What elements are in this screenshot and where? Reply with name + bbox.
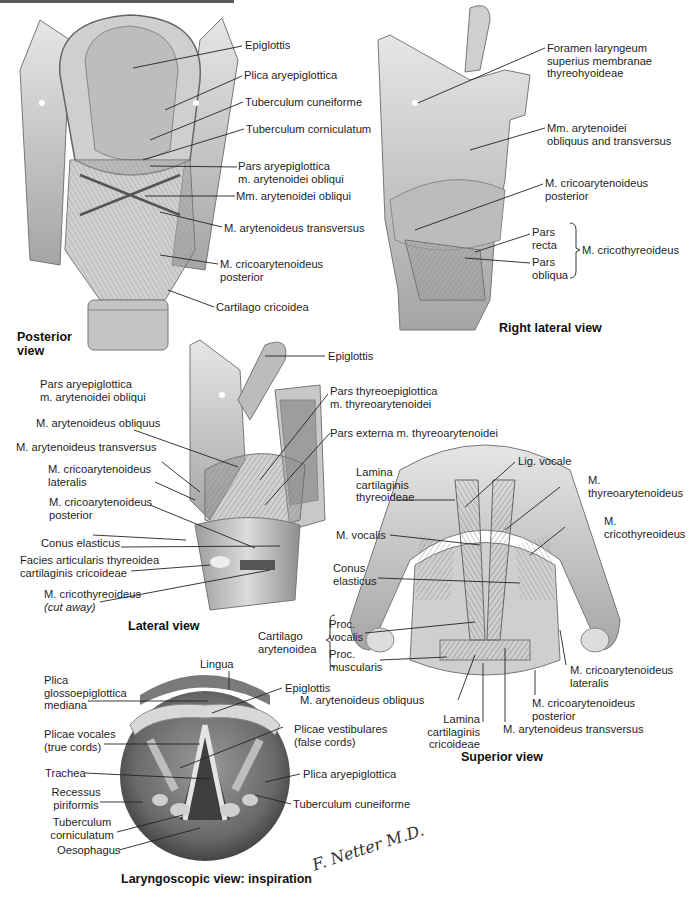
- label-mm-arytenoidei-obliqui: Mm. arytenoidei obliqui: [236, 190, 351, 203]
- label-tuberculum-cuneiforme-laryngoscopic: Tuberculum cuneiforme: [293, 798, 410, 811]
- label-pars-aryepiglottica-lateral: Pars aryepiglottica m. arytenoidei obliq…: [40, 378, 146, 403]
- label-m-cricoarytenoideus-lateralis: M. cricoarytenoideus lateralis: [48, 463, 151, 488]
- label-plica-aryepiglottica-laryngoscopic: Plica aryepiglottica: [303, 768, 396, 781]
- right-lateral-view-title: Right lateral view: [499, 321, 602, 335]
- laryngoscopic-view-illustration: [120, 675, 290, 861]
- label-tuberculum-corniculatum-laryngoscopic: Tuberculum corniculatum: [46, 816, 118, 841]
- label-pars-recta: Pars recta: [532, 226, 557, 251]
- label-pars-obliqua: Pars obliqua: [532, 256, 568, 281]
- label-m-thyreoarytenoideus: M. thyreoarytenoideus: [588, 474, 683, 499]
- label-conus-elasticus-lateral: Conus elasticus: [41, 537, 120, 550]
- label-m-cricoarytenoideus-posterior-superior: M. cricoarytenoideus posterior: [532, 697, 635, 722]
- superior-view-title: Superior view: [461, 750, 543, 764]
- label-pars-thyreoepiglottica: Pars thyreoepiglottica m. thyreoarytenoi…: [330, 385, 438, 410]
- label-m-arytenoideus-transversus-superior: M. arytenoideus transversus: [503, 723, 644, 736]
- label-pars-aryepiglottica: Pars aryepiglottica m. arytenoidei obliq…: [238, 160, 344, 185]
- label-plicae-vocales: Plicae vocales (true cords): [44, 728, 116, 753]
- label-cartilago-cricoidea: Cartilago cricoidea: [216, 301, 309, 314]
- label-m-cricothyreoideus-superior: M. cricothyreoideus: [604, 515, 685, 540]
- label-plica-glossoepiglottica-mediana: Plica glossoepiglottica mediana: [44, 674, 127, 712]
- label-m-cricothyreoideus-right: M. cricothyreoideus: [582, 244, 679, 257]
- lateral-view-illustration: [190, 340, 325, 610]
- label-foramen-laryngeum: Foramen laryngeum superius membranae thy…: [547, 42, 652, 80]
- label-mm-arytenoidei-obliquus-transversus: Mm. arytenoidei obliquus and transversus: [547, 122, 671, 147]
- posterior-view-title: Posterior view: [17, 330, 72, 358]
- label-m-arytenoideus-transversus: M. arytenoideus transversus: [224, 222, 365, 235]
- label-plica-aryepiglottica: Plica aryepiglottica: [244, 69, 337, 82]
- label-epiglottis-lateral: Epiglottis: [328, 350, 373, 363]
- label-lamina-cartilaginis-cricoideae: Lamina cartilaginis cricoideae: [414, 713, 480, 751]
- label-trachea: Trachea: [45, 767, 86, 780]
- label-lingua: Lingua: [200, 658, 234, 671]
- label-m-arytenoideus-obliquus-superior: M. arytenoideus obliquus: [300, 694, 424, 707]
- label-m-arytenoideus-transversus-lateral: M. arytenoideus transversus: [16, 441, 157, 454]
- label-m-cricoarytenoideus-lateralis-superior: M. cricoarytenoideus lateralis: [570, 664, 673, 689]
- label-tuberculum-cuneiforme: Tuberculum cuneiforme: [245, 96, 362, 109]
- label-oesophagus: Oesophagus: [57, 844, 120, 857]
- label-recessus-piriformis: Recessus piriformis: [50, 786, 102, 811]
- label-proc-muscularis: Proc. muscularis: [329, 648, 382, 673]
- label-conus-elasticus-superior: Conus elasticus: [333, 562, 377, 587]
- label-m-cricoarytenoideus-posterior-lateral: M. cricoarytenoideus posterior: [49, 496, 152, 521]
- label-pars-externa: Pars externa m. thyreoarytenoidei: [330, 427, 498, 440]
- label-m-cricoarytenoideus-posterior-right: M. cricoarytenoideus posterior: [545, 177, 648, 202]
- lateral-view-title: Lateral view: [128, 619, 200, 633]
- label-plicae-vestibulares: Plicae vestibulares (false cords): [294, 723, 387, 748]
- label-m-cricoarytenoideus-posterior: M. cricoarytenoideus posterior: [220, 258, 323, 283]
- label-m-cricothyreoideus-cut-away: M. cricothyreoideus (cut away): [44, 588, 141, 613]
- right-lateral-view-illustration: [378, 6, 530, 330]
- label-epiglottis-laryngoscopic: Epiglottis: [285, 682, 330, 695]
- label-lamina-cartilaginis-thyreoideae: Lamina cartilaginis thyreoideae: [356, 466, 414, 504]
- label-m-vocalis: M. vocalis: [336, 529, 386, 542]
- label-facies-articularis: Facies articularis thyreoidea cartilagin…: [20, 554, 159, 579]
- label-tuberculum-corniculatum: Tuberculum corniculatum: [246, 123, 371, 136]
- laryngoscopic-view-title: Laryngoscopic view: inspiration: [121, 872, 312, 886]
- label-lig-vocale: Lig. vocale: [518, 455, 572, 468]
- label-proc-vocalis: Proc. vocalis: [329, 618, 363, 643]
- label-m-arytenoideus-obliquus-lateral: M. arytenoideus obliquus: [36, 417, 160, 430]
- label-epiglottis: Epiglottis: [245, 39, 290, 52]
- posterior-view-illustration: [20, 15, 238, 350]
- label-cartilago-arytenoidea: Cartilago arytenoidea: [258, 630, 316, 655]
